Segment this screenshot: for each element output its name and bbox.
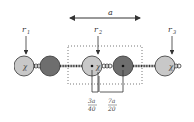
svg-text:20: 20	[107, 105, 116, 112]
spacing-arrow: a	[70, 8, 140, 18]
spacing-label: a	[108, 8, 113, 17]
chi-symbol-1: χ	[22, 63, 28, 71]
lattice-diagram: a χ χ χ r 1 r 2 r 3	[0, 0, 194, 122]
position-marker-r1: r 1	[22, 25, 30, 54]
center-dot-1	[91, 65, 94, 68]
svg-text:40: 40	[87, 105, 96, 112]
position-marker-r3: r 3	[168, 25, 176, 54]
position-marker-r2: r 2	[94, 25, 102, 54]
chi-symbol-3: χ	[168, 63, 174, 71]
chi-symbol-2: χ	[95, 63, 101, 71]
atom-dark-1	[40, 56, 60, 76]
svg-text:2: 2	[98, 29, 102, 35]
svg-text:7a: 7a	[108, 97, 116, 104]
svg-text:3a: 3a	[88, 97, 96, 104]
svg-text:3: 3	[173, 29, 176, 35]
center-dot-2	[122, 65, 125, 68]
svg-text:1: 1	[27, 29, 30, 35]
offset-label-7a-20: 7a 20	[107, 97, 117, 112]
offset-label-3a-40: 3a 40	[87, 97, 97, 112]
